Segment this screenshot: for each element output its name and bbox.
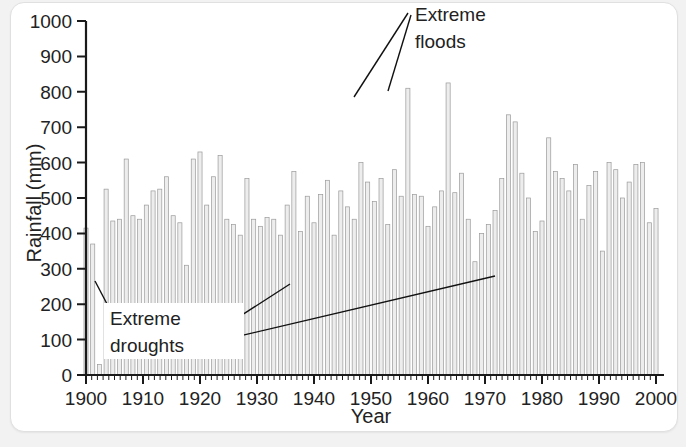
x-tick-label: 1970 [464,388,506,409]
bar [299,232,303,375]
bar [406,88,410,375]
y-tick-label: 500 [40,188,72,209]
x-tick-label: 1940 [293,388,335,409]
bar [339,191,343,375]
y-tick-label: 600 [40,153,72,174]
bar [580,219,584,375]
x-tick-label: 2000 [635,388,677,409]
y-tick-label: 300 [40,259,72,280]
extreme-droughts-label-line1: Extreme [110,308,181,329]
bar [493,210,497,375]
bar [345,207,349,375]
bar [392,170,396,375]
bar [560,179,564,375]
x-tick-label: 1990 [578,388,620,409]
bar [620,198,624,375]
bar [352,219,356,375]
y-tick-label: 400 [40,223,72,244]
chart-svg: 0100200300400500600700800900100019001910… [11,3,677,431]
bar [399,196,403,375]
bar [379,179,383,375]
bar [97,364,101,375]
y-tick-label: 200 [40,294,72,315]
bar [419,196,423,375]
bar [547,138,551,375]
bar [567,191,571,375]
extreme-floods-leaders [354,13,411,97]
bar [386,225,390,375]
bar [533,232,537,375]
bar [647,223,651,375]
y-tick-label: 900 [40,46,72,67]
y-tick-label: 1000 [30,11,72,32]
bar [607,163,611,375]
bar [500,179,504,375]
x-axis-title: Year [351,405,392,427]
bar [258,226,262,375]
bar [312,223,316,375]
bar [473,262,477,375]
bar [372,202,376,375]
bar [614,170,618,375]
bar [459,173,463,375]
bar [506,115,510,375]
bar [486,225,490,375]
extreme-droughts-label-line2: droughts [110,335,184,356]
bar [527,198,531,375]
x-tick-label: 1910 [122,388,164,409]
bar [573,164,577,375]
bar [272,219,276,375]
bar [292,171,296,375]
bar [305,196,309,375]
y-tick-label: 800 [40,82,72,103]
bar [439,191,443,375]
bar [453,193,457,375]
y-tick-label: 0 [61,365,72,386]
bar [359,163,363,375]
bar [278,235,282,375]
extreme-floods-label-line2: floods [415,31,466,52]
bar [634,164,638,375]
bar [466,219,470,375]
bar [91,244,95,375]
x-tick-label: 1960 [407,388,449,409]
bar [480,233,484,375]
bar [285,205,289,375]
extreme-floods-label-line1: Extreme [415,4,486,25]
bar [600,251,604,375]
bar [446,83,450,375]
floods-leader-1 [354,13,408,97]
y-tick-label: 100 [40,330,72,351]
bar [553,171,557,375]
x-tick-label: 1900 [65,388,107,409]
rainfall-bar-chart: 0100200300400500600700800900100019001910… [11,3,677,431]
bar [325,180,329,375]
bar [540,221,544,375]
bar [627,182,631,375]
bar [366,182,370,375]
y-axis-title: Rainfall (mm) [23,144,45,263]
bar [413,194,417,375]
bar [641,163,645,375]
x-tick-label: 1930 [236,388,278,409]
y-tick-label: 700 [40,117,72,138]
bar [594,171,598,375]
bar [332,235,336,375]
bar [426,226,430,375]
bar [520,173,524,375]
bar [245,179,249,375]
bar [587,186,591,375]
figure-card: 0100200300400500600700800900100019001910… [10,2,678,432]
bar [654,209,658,375]
bar [252,219,256,375]
x-tick-label: 1980 [521,388,563,409]
bar [513,122,517,375]
x-tick-label: 1920 [179,388,221,409]
bar [265,217,269,375]
bar [319,194,323,375]
